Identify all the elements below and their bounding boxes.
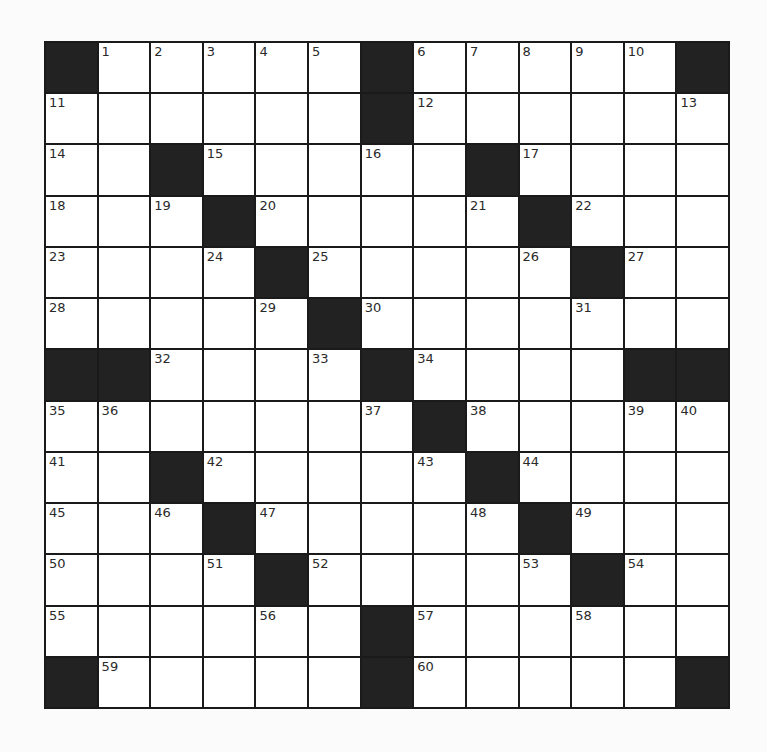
grid-cell[interactable]: 50 [46, 555, 97, 604]
grid-cell[interactable] [256, 145, 307, 194]
grid-cell[interactable]: 26 [520, 248, 571, 297]
grid-cell[interactable] [151, 94, 202, 143]
grid-cell[interactable]: 19 [151, 197, 202, 246]
grid-cell[interactable]: 52 [309, 555, 360, 604]
grid-cell[interactable]: 57 [414, 607, 465, 656]
grid-cell[interactable] [414, 197, 465, 246]
grid-cell[interactable] [309, 607, 360, 656]
grid-cell[interactable] [151, 658, 202, 707]
grid-cell[interactable] [625, 658, 676, 707]
grid-cell[interactable]: 29 [256, 299, 307, 348]
grid-cell[interactable] [572, 94, 623, 143]
grid-cell[interactable]: 38 [467, 402, 518, 451]
grid-cell[interactable]: 60 [414, 658, 465, 707]
grid-cell[interactable]: 53 [520, 555, 571, 604]
grid-cell[interactable] [625, 197, 676, 246]
grid-cell[interactable] [151, 555, 202, 604]
grid-cell[interactable] [309, 402, 360, 451]
grid-cell[interactable] [414, 299, 465, 348]
grid-cell[interactable]: 58 [572, 607, 623, 656]
grid-cell[interactable] [467, 555, 518, 604]
grid-cell[interactable]: 56 [256, 607, 307, 656]
grid-cell[interactable] [572, 145, 623, 194]
grid-cell[interactable]: 13 [677, 94, 728, 143]
grid-cell[interactable] [677, 197, 728, 246]
grid-cell[interactable] [99, 299, 150, 348]
grid-cell[interactable]: 17 [520, 145, 571, 194]
grid-cell[interactable] [414, 145, 465, 194]
grid-cell[interactable] [204, 607, 255, 656]
grid-cell[interactable]: 12 [414, 94, 465, 143]
grid-cell[interactable]: 18 [46, 197, 97, 246]
grid-cell[interactable]: 35 [46, 402, 97, 451]
grid-cell[interactable] [99, 145, 150, 194]
grid-cell[interactable] [414, 504, 465, 553]
grid-cell[interactable] [362, 197, 413, 246]
grid-cell[interactable] [467, 299, 518, 348]
grid-cell[interactable] [99, 94, 150, 143]
grid-cell[interactable]: 32 [151, 350, 202, 399]
grid-cell[interactable] [362, 555, 413, 604]
grid-cell[interactable]: 59 [99, 658, 150, 707]
grid-cell[interactable] [677, 453, 728, 502]
grid-cell[interactable] [204, 658, 255, 707]
grid-cell[interactable] [362, 248, 413, 297]
grid-cell[interactable] [151, 248, 202, 297]
grid-cell[interactable] [625, 299, 676, 348]
grid-cell[interactable] [625, 504, 676, 553]
grid-cell[interactable] [256, 94, 307, 143]
grid-cell[interactable]: 33 [309, 350, 360, 399]
grid-cell[interactable] [414, 248, 465, 297]
grid-cell[interactable]: 51 [204, 555, 255, 604]
grid-cell[interactable]: 45 [46, 504, 97, 553]
grid-cell[interactable]: 9 [572, 43, 623, 92]
grid-cell[interactable] [677, 145, 728, 194]
grid-cell[interactable] [99, 555, 150, 604]
grid-cell[interactable] [625, 94, 676, 143]
grid-cell[interactable] [362, 453, 413, 502]
grid-cell[interactable]: 3 [204, 43, 255, 92]
grid-cell[interactable]: 10 [625, 43, 676, 92]
grid-cell[interactable] [520, 402, 571, 451]
grid-cell[interactable] [520, 658, 571, 707]
grid-cell[interactable] [520, 350, 571, 399]
grid-cell[interactable] [677, 504, 728, 553]
grid-cell[interactable] [572, 453, 623, 502]
grid-cell[interactable]: 11 [46, 94, 97, 143]
grid-cell[interactable]: 34 [414, 350, 465, 399]
grid-cell[interactable] [572, 658, 623, 707]
grid-cell[interactable] [572, 402, 623, 451]
grid-cell[interactable]: 37 [362, 402, 413, 451]
grid-cell[interactable] [151, 402, 202, 451]
grid-cell[interactable] [309, 197, 360, 246]
grid-cell[interactable] [572, 350, 623, 399]
grid-cell[interactable] [309, 453, 360, 502]
grid-cell[interactable] [625, 145, 676, 194]
grid-cell[interactable]: 20 [256, 197, 307, 246]
grid-cell[interactable]: 39 [625, 402, 676, 451]
grid-cell[interactable] [99, 504, 150, 553]
grid-cell[interactable]: 6 [414, 43, 465, 92]
grid-cell[interactable] [362, 504, 413, 553]
grid-cell[interactable] [99, 197, 150, 246]
grid-cell[interactable]: 7 [467, 43, 518, 92]
grid-cell[interactable] [677, 555, 728, 604]
grid-cell[interactable] [520, 607, 571, 656]
grid-cell[interactable] [309, 94, 360, 143]
grid-cell[interactable]: 54 [625, 555, 676, 604]
grid-cell[interactable] [99, 248, 150, 297]
grid-cell[interactable]: 55 [46, 607, 97, 656]
grid-cell[interactable]: 4 [256, 43, 307, 92]
grid-cell[interactable]: 42 [204, 453, 255, 502]
grid-cell[interactable]: 31 [572, 299, 623, 348]
grid-cell[interactable]: 24 [204, 248, 255, 297]
grid-cell[interactable] [99, 453, 150, 502]
grid-cell[interactable] [151, 299, 202, 348]
grid-cell[interactable]: 41 [46, 453, 97, 502]
grid-cell[interactable]: 15 [204, 145, 255, 194]
grid-cell[interactable]: 43 [414, 453, 465, 502]
grid-cell[interactable] [467, 248, 518, 297]
grid-cell[interactable] [677, 248, 728, 297]
grid-cell[interactable] [625, 607, 676, 656]
grid-cell[interactable] [677, 607, 728, 656]
